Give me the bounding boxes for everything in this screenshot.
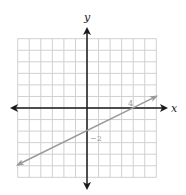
y-intercept-label: −2 <box>90 134 102 143</box>
coordinate-graph: x y 4 −2 <box>0 0 186 195</box>
y-axis-label: y <box>83 11 91 24</box>
x-axis-label: x <box>171 102 178 115</box>
x-intercept-label: 4 <box>128 99 133 108</box>
